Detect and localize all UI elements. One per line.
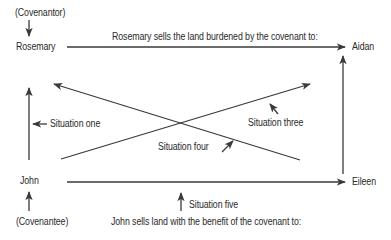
aidan-label: Aidan xyxy=(352,41,374,53)
bottom-caption: John sells land with the benefit of the … xyxy=(111,216,301,228)
situation-five-label: Situation five xyxy=(189,199,238,211)
covenantee-label: (Covenantee) xyxy=(16,216,68,228)
top-caption: Rosemary sells the land burdened by the … xyxy=(112,31,318,43)
situation-four-pointer xyxy=(222,141,233,152)
john-label: John xyxy=(20,175,39,187)
situation-three-pointer xyxy=(270,104,278,114)
situation-one-label: Situation one xyxy=(50,118,100,130)
eileen-label: Eileen xyxy=(352,176,376,188)
rosemary-label: Rosemary xyxy=(16,41,55,53)
situation-three-label: Situation three xyxy=(248,117,303,129)
situation-four-label: Situation four xyxy=(158,141,209,153)
covenant-diagram: (Covenantor) Rosemary Rosemary sells the… xyxy=(0,0,391,240)
covenantor-label: (Covenantor) xyxy=(15,7,65,19)
